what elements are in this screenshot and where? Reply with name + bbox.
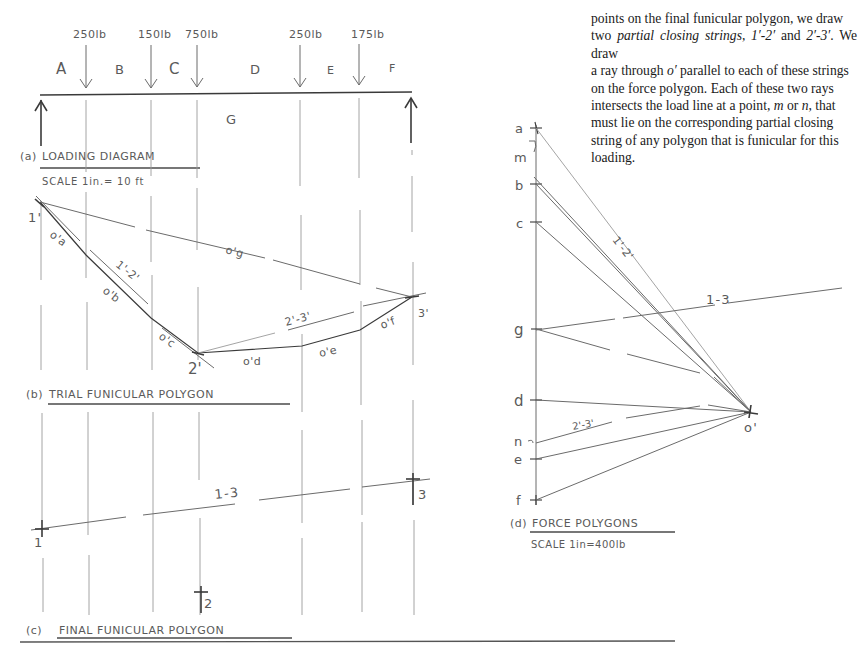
caption-prefix-b: (b) xyxy=(26,388,43,401)
point-label-1prime: 1' xyxy=(28,210,42,225)
load-arrow-5 xyxy=(353,44,365,85)
text-run: and xyxy=(775,28,806,43)
load-point-a: a xyxy=(515,121,524,136)
paragraph-line: a ray through o′ parallel to each of the… xyxy=(591,62,857,79)
ray-1-3 xyxy=(536,288,842,330)
caption-prefix-d: (d) xyxy=(510,517,527,530)
point-label-3prime: 3' xyxy=(418,307,429,320)
ray-label-1-2: 1'-2' xyxy=(610,234,637,263)
load-label-4: 250lb xyxy=(289,28,323,41)
segment-label-od: o'd xyxy=(243,355,261,368)
ray-oe xyxy=(536,412,751,459)
load-arrow-2 xyxy=(145,45,157,88)
text-run: or xyxy=(784,98,802,113)
point-label-2prime: 2' xyxy=(188,360,202,378)
caption-prefix-c: (c) xyxy=(26,624,42,637)
term-1-2: 1′-2′ xyxy=(751,28,775,43)
text-run: on the force polygon. Each of these two … xyxy=(591,81,834,96)
load-point-f: f xyxy=(516,493,522,508)
ray-oc xyxy=(536,222,751,412)
pole-label: o' xyxy=(744,420,758,435)
text-run: two xyxy=(591,28,617,43)
paragraph-line: must lie on the corresponding partial cl… xyxy=(591,114,857,131)
load-point-d: d xyxy=(514,392,524,410)
ray-label-2-3: 2'-3' xyxy=(571,417,594,432)
trial-funicular-polygon: 1' 2' 3' o'a o'b o'c o'd o'e o'f o'g 1'-… xyxy=(26,196,429,404)
paragraph-line: string of any polygon that is funicular … xyxy=(591,132,857,149)
load-point-e: e xyxy=(514,452,523,467)
term-2-3: 2′-3′ xyxy=(806,28,830,43)
page-rule xyxy=(20,641,675,642)
caption-force-polygons: FORCE POLYGONS xyxy=(532,517,638,530)
load-arrow-3 xyxy=(191,45,203,87)
load-label-5: 175lb xyxy=(351,28,385,41)
final-funicular-polygon: 1 2 3 1-3 (c) FINAL FUNICULAR POLYGON xyxy=(26,473,430,638)
segment-label-oc: o'c xyxy=(156,330,178,351)
load-arrow-4 xyxy=(294,45,306,87)
paragraph-line: on the force polygon. Each of these two … xyxy=(591,80,857,97)
load-label-1: 250lb xyxy=(73,28,107,41)
ray-od xyxy=(536,400,751,412)
text-run: , xyxy=(742,28,751,43)
explanatory-paragraph: points on the final funicular polygon, w… xyxy=(591,10,857,167)
text-run: string of any polygon that is funicular … xyxy=(591,133,839,148)
load-point-n: n xyxy=(514,434,523,449)
text-run: loading. xyxy=(591,150,635,165)
space-label-d: D xyxy=(250,62,261,77)
reaction-arrow-right xyxy=(405,98,417,143)
segment-label-og: o'g xyxy=(224,243,245,260)
load-point-m: m xyxy=(514,150,528,165)
space-label-a: A xyxy=(56,60,67,78)
caption-prefix-a: (a) xyxy=(20,150,37,163)
closing-label-1-2: 1'-2' xyxy=(113,258,142,285)
load-label-2: 150lb xyxy=(138,28,172,41)
space-label-f: F xyxy=(389,62,396,75)
load-point-g: g xyxy=(514,321,524,339)
paragraph-line: points on the final funicular polygon, w… xyxy=(591,10,857,27)
ray-og xyxy=(536,329,751,412)
text-run: , that xyxy=(808,98,835,113)
ray-of xyxy=(536,412,751,500)
trial-polygon-strings xyxy=(40,202,412,353)
load-label-3: 750lb xyxy=(185,28,219,41)
closing-label-1-3: 1-3 xyxy=(214,484,240,502)
point-label-1: 1 xyxy=(34,535,43,550)
ray-oa xyxy=(536,128,751,412)
text-run: points on the final funicular polygon, w… xyxy=(591,11,843,26)
load-point-c: c xyxy=(516,216,524,231)
paragraph-line: intersects the load line at a point, m o… xyxy=(591,97,857,114)
caption-loading-diagram: LOADING DIAGRAM xyxy=(42,150,155,163)
space-label-g: G xyxy=(226,112,237,127)
text-run: a ray through xyxy=(591,63,667,78)
segment-label-oe: o'e xyxy=(318,343,338,359)
space-label-c: C xyxy=(169,60,179,78)
term-partial-closing-strings: partial closing strings xyxy=(617,28,742,43)
ray-label-1-3: 1-3 xyxy=(706,292,731,307)
point-label-2: 2 xyxy=(204,596,213,611)
term-m: m xyxy=(774,98,784,113)
caption-trial-funicular: TRIAL FUNICULAR POLYGON xyxy=(48,388,214,401)
load-point-b: b xyxy=(515,178,524,193)
text-run: intersects the load line at a point, xyxy=(591,98,774,113)
beam-line xyxy=(40,92,412,95)
load-arrow-1 xyxy=(80,45,92,88)
paragraph-line: loading. xyxy=(591,149,857,166)
closing-label-2-3: 2'-3' xyxy=(283,309,312,328)
force-polygon: a m b c g d n e f o' 1'-2' 1-3 2'-3' (d)… xyxy=(510,121,842,550)
scale-label-d: SCALE 1in=400lb xyxy=(531,539,626,550)
text-run: must lie on the corresponding partial cl… xyxy=(591,115,833,130)
loading-diagram: 250lb 150lb 750lb 250lb 175lb A B C D E … xyxy=(20,28,417,187)
scale-label-a: SCALE 1in.= 10 ft xyxy=(42,176,144,187)
text-run: parallel to each of these strings xyxy=(677,63,849,78)
space-label-e: E xyxy=(327,64,334,77)
reaction-arrow-left xyxy=(35,100,47,146)
point-label-3: 3 xyxy=(418,487,427,502)
caption-final-funicular: FINAL FUNICULAR POLYGON xyxy=(59,624,224,637)
term-o-prime: o′ xyxy=(667,63,677,78)
space-label-b: B xyxy=(115,62,125,77)
paragraph-line: two partial closing strings, 1′-2′ and 2… xyxy=(591,27,857,62)
